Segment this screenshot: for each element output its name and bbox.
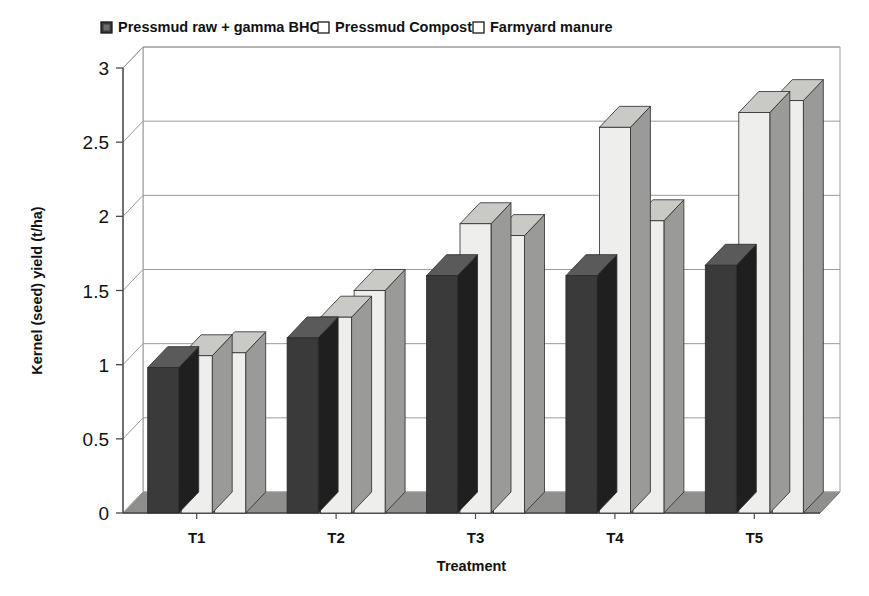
legend-swatch-3 — [473, 22, 484, 33]
y-tick-label: 0.5 — [83, 429, 109, 450]
y-tick-label: 1 — [98, 355, 109, 376]
bar-T3-series2-side — [491, 203, 511, 513]
bar-T5-series3-side — [803, 80, 823, 513]
bar-T4-series1 — [566, 276, 597, 513]
x-tick-label: T2 — [327, 529, 345, 546]
bar-T1-series1 — [148, 368, 179, 513]
y-tick-label: 0 — [98, 503, 109, 524]
bar-T2-series3-side — [385, 270, 405, 514]
y-tick-label: 2 — [98, 206, 109, 227]
bar-chart: 00.511.522.53T1T2T3T4T5TreatmentKernel (… — [0, 0, 869, 596]
bar-T1-series3-side — [246, 332, 266, 513]
bar-T5-series1 — [705, 265, 736, 513]
y-tick-label: 1.5 — [83, 281, 109, 302]
bar-T4-series3-side — [664, 200, 684, 513]
bar-T3-series1-side — [458, 255, 478, 513]
x-tick-label: T1 — [188, 529, 206, 546]
legend-swatch-2 — [318, 22, 329, 33]
bar-T5-series1-side — [736, 244, 756, 513]
bar-T2-series1-side — [318, 317, 338, 513]
bar-T1-series1-side — [179, 347, 199, 513]
bar-T5-series2-side — [770, 92, 790, 514]
legend-label-3: Farmyard manure — [490, 19, 613, 35]
bar-T2-series2-side — [352, 296, 372, 513]
x-tick-label: T5 — [746, 529, 764, 546]
x-axis-title: Treatment — [437, 558, 506, 574]
y-tick-label: 3 — [98, 58, 109, 79]
chart-container: 00.511.522.53T1T2T3T4T5TreatmentKernel (… — [0, 0, 869, 596]
bar-T3-series1 — [427, 276, 458, 513]
bar-T4-series2-side — [630, 106, 650, 513]
bar-T2-series1 — [287, 338, 318, 513]
y-tick-label: 2.5 — [83, 132, 109, 153]
y-axis-title: Kernel (seed) yield (t/ha) — [29, 206, 45, 375]
bar-T3-series3-side — [525, 215, 545, 513]
x-tick-label: T3 — [467, 529, 485, 546]
legend-label-1: Pressmud raw + gamma BHC — [118, 19, 320, 35]
legend-swatch-inner-1 — [104, 25, 110, 31]
x-tick-label: T4 — [606, 529, 624, 546]
legend-label-2: Pressmud Compost — [335, 19, 472, 35]
bar-T4-series1-side — [597, 255, 617, 513]
bar-T1-series2-side — [212, 335, 232, 513]
